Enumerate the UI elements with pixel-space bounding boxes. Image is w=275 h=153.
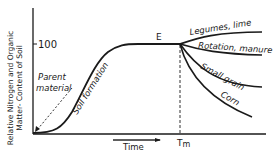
parent-material-arrow xyxy=(37,88,72,130)
annotation-material: material xyxy=(36,83,72,93)
annotation-parent: Parent xyxy=(38,72,66,82)
label-rotation-manure: Rotation, manure xyxy=(198,40,273,55)
y-axis-label-line2: Matter- Content of Soil xyxy=(15,45,24,131)
time-arrowhead-icon xyxy=(155,138,161,142)
x-tick-label-tm: Tm xyxy=(176,138,191,149)
x-axis-label: Time xyxy=(122,142,144,152)
label-corn: Corn xyxy=(219,89,241,108)
annotation-e: E xyxy=(156,32,162,42)
soil-nitrogen-diagram: 100 Relative Nitrogen and Organic Matter… xyxy=(0,0,275,153)
arrowhead-icon xyxy=(35,126,40,132)
annotation-soil-formation: Soil formation xyxy=(70,60,110,116)
y-axis-label-line1: Relative Nitrogen and Organic xyxy=(6,31,15,145)
y-tick-label-100: 100 xyxy=(38,39,57,50)
